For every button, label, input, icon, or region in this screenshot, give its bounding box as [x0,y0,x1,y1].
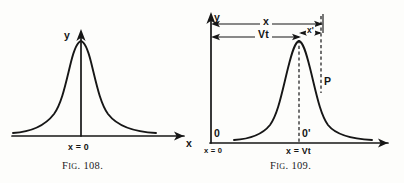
caption-number-108: . 108. [77,160,103,171]
figure-109-caption: FIG. 109. [270,160,311,171]
peak-above-label-109: 0' [302,128,311,139]
x-axis-label-108: x [186,138,192,149]
pulse-curve-109 [234,41,372,140]
y-axis-label-108: y [64,30,70,41]
y-axis-109 [206,12,215,143]
point-p-label-109: P [324,76,331,87]
origin-above-label-109: 0 [214,128,220,139]
figure-109: y x Vt x' P 0 x = 0 0' x = Vt FIG. 109. [202,0,404,183]
dimension-vt-label-109: Vt [255,29,272,40]
dimension-xprime-label-109: x' [306,26,315,34]
figure-108: y x x = 0 FIG. 108. [0,0,202,183]
caption-number-109: . 109. [285,160,311,171]
peak-below-label-109: x = Vt [286,147,311,156]
origin-below-label-109: x = 0 [204,147,222,155]
figure-108-caption: FIG. 108. [62,160,103,171]
figure-sheet: y x x = 0 FIG. 108. [0,0,404,183]
figure-108-drawing [0,0,202,183]
y-axis-label-109: y [214,12,220,23]
origin-label-108: x = 0 [68,143,89,152]
pulse-curve-108 [13,41,156,133]
x-axis-108 [12,132,184,141]
dimension-x-label-109: x [260,16,272,27]
